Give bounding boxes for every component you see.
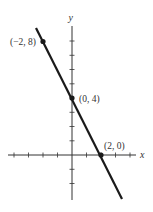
point-2-0 [98,152,103,157]
point-label-neg2-8: (−2, 8) [10,37,36,48]
graph-line [36,28,122,199]
point-0-4 [69,95,74,100]
x-axis-label: x [139,149,145,160]
y-axis-label: y [68,12,74,23]
point-neg2-8 [40,39,45,44]
point-label-0-4: (0, 4) [79,94,100,105]
line-graph: x y (−2, 8) (0, 4) (2, 0) [0,0,153,212]
point-label-2-0: (2, 0) [104,141,125,152]
